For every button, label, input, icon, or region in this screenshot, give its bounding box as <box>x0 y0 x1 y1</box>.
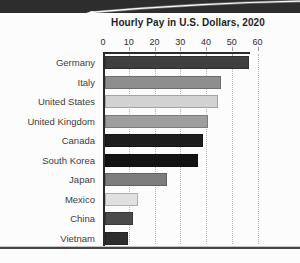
bar <box>105 134 203 147</box>
axis-tickmark <box>232 47 233 51</box>
category-label: South Korea <box>0 153 95 168</box>
axis-tickmark <box>206 47 207 51</box>
gridline <box>232 54 233 244</box>
category-label: Germany <box>0 55 95 70</box>
bar <box>105 212 133 225</box>
category-label: Italy <box>0 75 95 90</box>
bar <box>105 115 208 128</box>
bar <box>105 154 198 167</box>
bottom-rule <box>0 246 300 250</box>
category-label: Japan <box>0 172 95 187</box>
glare-line-graphic <box>0 0 300 13</box>
bottom-rule-dark <box>0 247 300 249</box>
bar <box>105 193 138 206</box>
category-label: Canada <box>0 133 95 148</box>
category-label: Vietnam <box>0 231 95 246</box>
plot-area <box>103 52 265 250</box>
axis-tickmark <box>258 47 259 51</box>
bar <box>105 56 249 69</box>
category-label: China <box>0 211 95 226</box>
x-axis-line <box>103 52 250 54</box>
category-label: Mexico <box>0 192 95 207</box>
axis-tickmark <box>180 47 181 51</box>
x-axis-tick-label: 0 <box>100 37 105 47</box>
bar <box>105 173 167 186</box>
bar <box>105 232 128 245</box>
bar <box>105 76 221 89</box>
x-axis-tick-labels: 0102030405060 <box>103 37 265 49</box>
top-band <box>0 0 300 13</box>
x-axis-tick-label: 10 <box>124 37 134 47</box>
book-page-photo: Hourly Pay in U.S. Dollars, 2020 0102030… <box>0 0 300 263</box>
x-axis-tick-label: 20 <box>149 37 159 47</box>
x-axis-tick-label: 60 <box>252 37 262 47</box>
x-axis-tick-label: 40 <box>201 37 211 47</box>
axis-tickmark <box>129 47 130 51</box>
chart-title: Hourly Pay in U.S. Dollars, 2020 <box>95 17 281 31</box>
x-axis-tick-label: 50 <box>227 37 237 47</box>
category-label: United States <box>0 94 95 109</box>
axis-tickmark <box>155 47 156 51</box>
x-axis-tick-label: 30 <box>175 37 185 47</box>
category-labels: GermanyItalyUnited StatesUnited KingdomC… <box>0 52 99 250</box>
category-label: United Kingdom <box>0 114 95 129</box>
bar <box>105 95 218 108</box>
gridline <box>258 54 259 244</box>
